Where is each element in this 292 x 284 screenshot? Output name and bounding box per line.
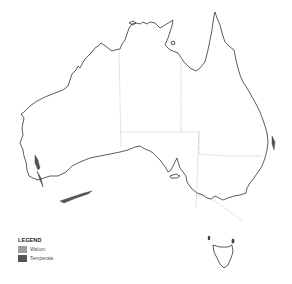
legend-swatch-walum (18, 246, 27, 253)
temperate-region-east-coast (272, 136, 275, 150)
border-nsw-vic (196, 195, 242, 221)
border-qld-nsw (199, 132, 262, 156)
temperate-region-sw-north (35, 155, 40, 170)
tasmania (213, 245, 233, 268)
temperate-region-south-coast (60, 191, 92, 203)
border-wa (119, 51, 121, 148)
legend-label-temperate: Temperate (30, 255, 54, 261)
legend-item-temperate: Temperate (18, 254, 54, 262)
border-sa-nsw-vic (196, 132, 199, 209)
legend-title: LEGEND (18, 237, 54, 243)
mainland-coastline (20, 12, 268, 200)
flinders-island (232, 239, 235, 244)
kangaroo-island (170, 174, 180, 178)
legend-swatch-temperate (18, 255, 27, 262)
legend-label-walum: Walum (30, 246, 45, 252)
king-island (208, 236, 211, 240)
groote-island (171, 41, 175, 45)
legend: LEGEND Walum Temperate (18, 237, 54, 263)
legend-item-walum: Walum (18, 245, 54, 253)
